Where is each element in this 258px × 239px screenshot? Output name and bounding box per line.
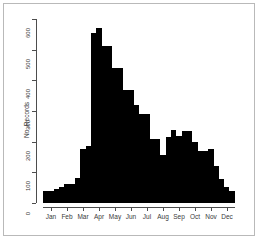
bar-series bbox=[43, 19, 235, 203]
x-axis-tick-label: Dec bbox=[221, 213, 233, 220]
x-axis-tick-label: Jan bbox=[46, 213, 56, 220]
x-axis-tick-label: Jul bbox=[143, 213, 151, 220]
x-axis-line bbox=[43, 207, 235, 208]
y-axis-tick bbox=[32, 111, 36, 112]
x-axis-tick-label: Apr bbox=[94, 213, 104, 220]
x-axis-tick bbox=[67, 207, 68, 211]
x-axis-tick-label: Jun bbox=[126, 213, 136, 220]
x-axis-tick-label: Aug bbox=[157, 213, 169, 220]
x-axis-tick bbox=[179, 207, 180, 211]
x-axis-tick bbox=[211, 207, 212, 211]
x-axis-tick bbox=[99, 207, 100, 211]
x-axis-tick bbox=[147, 207, 148, 211]
x-axis-tick-label: May bbox=[109, 213, 121, 220]
x-axis-tick-label: Feb bbox=[61, 213, 72, 220]
x-axis-tick-label: Nov bbox=[205, 213, 217, 220]
x-axis-tick bbox=[115, 207, 116, 211]
plot-area bbox=[43, 19, 235, 203]
x-axis-tick bbox=[163, 207, 164, 211]
x-axis-tick-label: Mar bbox=[77, 213, 88, 220]
x-axis-tick bbox=[51, 207, 52, 211]
y-axis-tick bbox=[32, 142, 36, 143]
y-axis-tick bbox=[32, 19, 36, 20]
y-axis-tick bbox=[32, 172, 36, 173]
x-axis-tick bbox=[83, 207, 84, 211]
x-axis-tick bbox=[195, 207, 196, 211]
y-axis-tick bbox=[32, 80, 36, 81]
histogram-figure: No. Records 0100200300400500600 JanFebMa… bbox=[0, 0, 258, 239]
x-axis-tick-label: Sep bbox=[173, 213, 185, 220]
x-axis-tick bbox=[227, 207, 228, 211]
x-axis-tick bbox=[131, 207, 132, 211]
histogram-bar bbox=[229, 191, 234, 203]
y-axis-tick bbox=[32, 203, 36, 204]
y-axis-line bbox=[36, 19, 37, 203]
y-axis-tick bbox=[32, 50, 36, 51]
x-axis-tick-label: Oct bbox=[190, 213, 200, 220]
